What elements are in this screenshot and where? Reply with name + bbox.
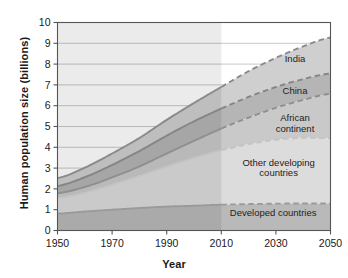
population-chart-figure: 012345678910195019701990201020302050 Ind…: [0, 0, 348, 278]
series-label: African: [280, 112, 310, 123]
series-label: China: [283, 85, 309, 96]
svg-text:2: 2: [45, 183, 51, 195]
svg-text:8: 8: [45, 58, 51, 70]
series-label: Other developing: [242, 157, 314, 168]
svg-text:3: 3: [45, 162, 51, 174]
svg-text:10: 10: [39, 16, 51, 28]
history-shade: [58, 23, 222, 231]
svg-text:1990: 1990: [155, 237, 179, 249]
svg-text:6: 6: [45, 99, 51, 111]
chart-canvas: 012345678910195019701990201020302050 Ind…: [0, 0, 348, 278]
series-label: countries: [259, 167, 298, 178]
svg-text:2010: 2010: [210, 237, 234, 249]
series-label: continent: [276, 123, 315, 134]
svg-text:2030: 2030: [264, 237, 288, 249]
svg-text:5: 5: [45, 120, 51, 132]
svg-text:1970: 1970: [100, 237, 124, 249]
svg-text:2050: 2050: [319, 237, 343, 249]
svg-text:4: 4: [45, 141, 51, 153]
x-axis-title: Year: [0, 258, 348, 270]
series-label: India: [285, 53, 306, 64]
y-axis-title: Human population size (billions): [18, 13, 30, 233]
series-label: Developed countries: [230, 207, 317, 218]
svg-text:0: 0: [45, 224, 51, 236]
svg-text:9: 9: [45, 37, 51, 49]
svg-text:7: 7: [45, 79, 51, 91]
svg-text:1950: 1950: [46, 237, 70, 249]
svg-text:1: 1: [45, 203, 51, 215]
